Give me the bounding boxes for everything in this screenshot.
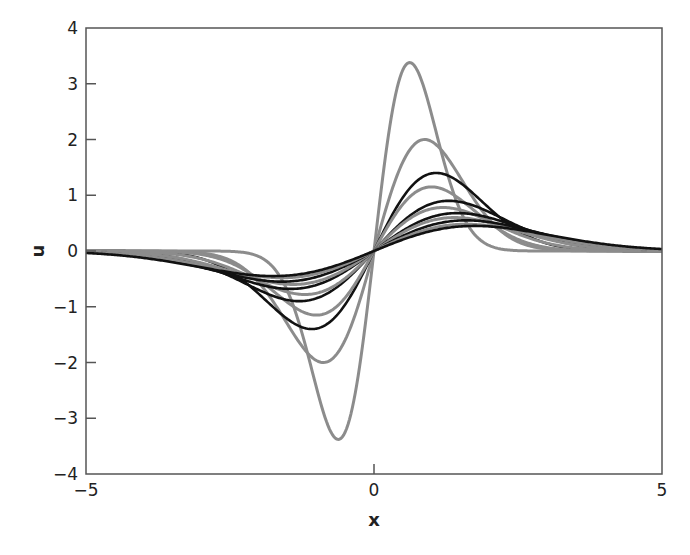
x-tick-label: 0 [369, 480, 380, 500]
x-tick-label: −5 [73, 480, 98, 500]
y-tick-label: 0 [67, 241, 78, 261]
y-tick-label: 1 [67, 185, 78, 205]
y-tick-label: 2 [67, 130, 78, 150]
y-axis-label: u [27, 245, 48, 258]
curves-layer [86, 63, 662, 440]
x-tick-label: 5 [657, 480, 668, 500]
y-tick-label: 3 [67, 74, 78, 94]
x-axis-ticks: −505 [73, 464, 667, 500]
line-chart: −4−3−2−101234 −505 x u [0, 0, 690, 555]
y-tick-label: −2 [53, 353, 78, 373]
x-axis-label: x [368, 509, 380, 530]
y-tick-label: −3 [53, 408, 78, 428]
y-tick-label: −1 [53, 297, 78, 317]
y-axis-ticks: −4−3−2−101234 [53, 18, 96, 484]
y-tick-label: 4 [67, 18, 78, 38]
